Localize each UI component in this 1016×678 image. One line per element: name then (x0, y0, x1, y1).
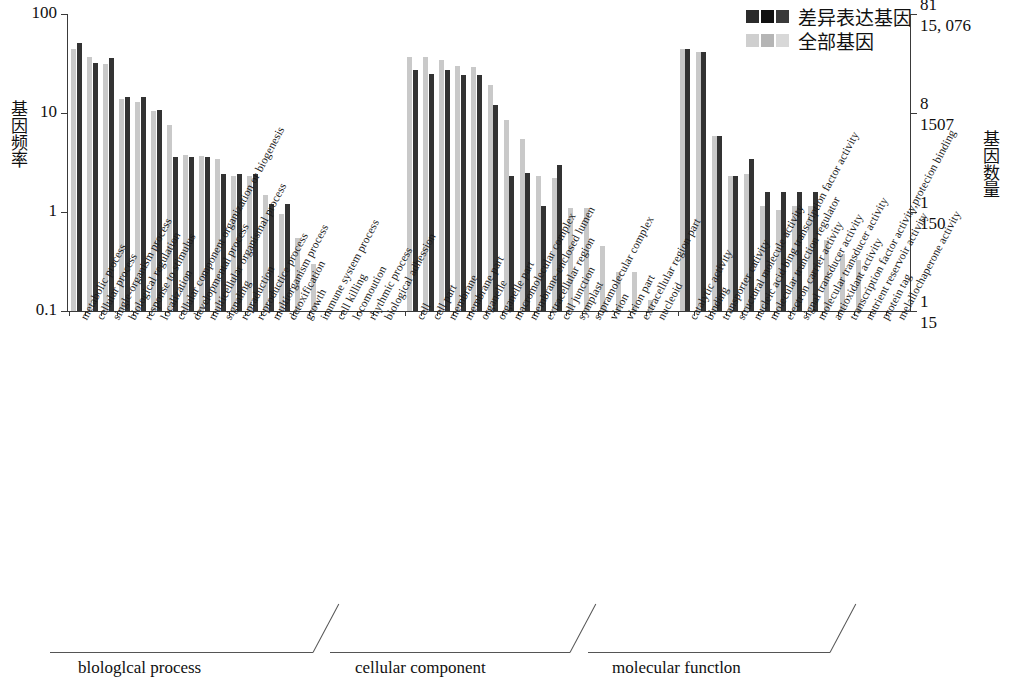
go-classification-chart: 差异表达基因 全部基因 1001010.1 8115, 076815071150… (0, 0, 1016, 678)
group-bracket-edge-cc (570, 604, 597, 653)
x-tick (678, 311, 679, 316)
y-left-tick (61, 311, 67, 312)
y-axis-left-title: 基因频率 (6, 100, 31, 168)
group-bracket-edge-bp (313, 604, 340, 653)
bar-all (439, 60, 444, 311)
group-bracket-edge-mf (830, 604, 857, 653)
group-bracket-cc (330, 651, 570, 653)
group-bracket-bp (50, 651, 313, 653)
bar-deg (93, 63, 98, 311)
x-tick (69, 311, 70, 316)
bar-all (696, 52, 701, 311)
bar-deg (445, 70, 450, 311)
y-right-tick-label-outer: 8 (920, 94, 929, 114)
bar-deg (77, 43, 82, 311)
bar-deg (429, 74, 434, 311)
y-left-tick-label: 10 (40, 102, 57, 122)
bar-all (680, 49, 685, 311)
y-right-tick-label-inner: 15, 076 (920, 16, 971, 36)
y-left-tick-label: 0.1 (36, 300, 57, 320)
bar-all (87, 57, 92, 311)
bar-all (455, 66, 460, 311)
y-axis-right-title: 基因数量 (978, 130, 1003, 198)
y-axis-right (910, 14, 911, 312)
bar-deg (461, 75, 466, 311)
y-right-tick-label-inner: 15 (920, 313, 937, 333)
x-tick (405, 311, 406, 316)
y-right-tick-label-outer: 1 (920, 292, 929, 312)
y-left-tick-label: 1 (49, 201, 58, 221)
group-label-cc: cellular component (355, 658, 486, 678)
bar-deg (685, 49, 690, 311)
y-right-tick (911, 113, 917, 114)
group-label-mf: molecular functlon (612, 658, 741, 678)
bar-deg (477, 75, 482, 311)
y-right-tick (911, 14, 917, 15)
bar-all (71, 49, 76, 311)
y-right-tick-label-outer: 81 (920, 0, 937, 15)
group-label-bp: blologlcal process (78, 658, 201, 678)
y-right-tick (911, 311, 917, 312)
y-left-tick-label: 100 (32, 3, 58, 23)
group-bracket-mf (588, 651, 830, 653)
bar-deg (701, 52, 706, 311)
bar-all (423, 57, 428, 311)
